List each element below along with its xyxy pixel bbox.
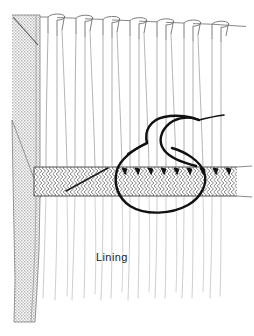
diagram-canvas: Lining — [0, 0, 254, 336]
drapery-pleat-diagram: Lining — [0, 0, 254, 336]
band-edge-extension — [237, 166, 252, 197]
buckram-heading-band — [34, 166, 252, 197]
lining-label: Lining — [96, 251, 128, 263]
thread-loop-icon — [116, 115, 224, 213]
band-hatch-fill — [34, 167, 237, 196]
